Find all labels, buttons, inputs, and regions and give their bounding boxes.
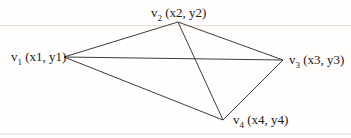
edge-v1-v4 — [64, 57, 223, 120]
edge-v1-v2 — [64, 22, 178, 57]
edge-v2-v3 — [178, 22, 283, 60]
edge-v3-v4 — [223, 60, 283, 120]
vertex-label-v3: v3 (x3, y3) — [289, 52, 344, 67]
vertex-coords: (x3, y3) — [303, 52, 344, 67]
graph-diagram: v1 (x1, y1) v2 (x2, y2) v3 (x3, y3) v4 (… — [0, 0, 351, 138]
vertex-label-v2: v2 (x2, y2) — [151, 5, 206, 20]
vertex-label-v1: v1 (x1, y1) — [11, 49, 66, 64]
vertex-coords: (x1, y1) — [25, 49, 66, 64]
vertex-label-v4: v4 (x4, y4) — [233, 112, 288, 127]
vertex-coords: (x2, y2) — [165, 5, 206, 20]
vertex-subscript: 1 — [18, 57, 23, 67]
vertex-subscript: 2 — [158, 13, 163, 23]
vertex-coords: (x4, y4) — [247, 112, 288, 127]
edge-v1-v3 — [64, 57, 283, 60]
vertex-subscript: 4 — [240, 120, 245, 130]
vertex-subscript: 3 — [296, 60, 301, 70]
